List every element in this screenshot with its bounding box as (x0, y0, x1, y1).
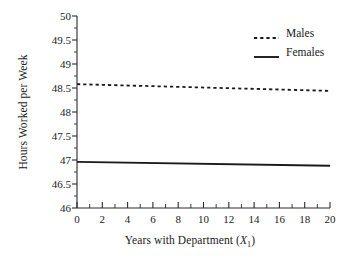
y-axis-tick-label: 48.5 (31, 83, 71, 94)
y-axis-tick-label: 46 (31, 203, 71, 214)
x-axis-title: Years with Department (X1) (60, 234, 320, 249)
x-axis-tick-labels: 02468101214161820 (77, 214, 330, 228)
legend-label: Males (286, 28, 314, 40)
y-axis-tick-label: 48 (31, 107, 71, 118)
y-axis-tick-label: 49 (31, 59, 71, 70)
legend-item-males: Males (253, 24, 343, 43)
legend-line-icon (253, 52, 280, 62)
y-axis-tick-label: 47.5 (31, 131, 71, 142)
series-line-females (77, 162, 330, 166)
chart-legend: MalesFemales (253, 24, 343, 62)
series-line-males (77, 84, 330, 91)
x-axis-title-suffix: ) (251, 234, 255, 246)
legend-swatch-dashed (253, 29, 280, 39)
x-axis-tick-label: 20 (315, 214, 344, 225)
legend-swatch-solid (253, 48, 280, 58)
y-axis-tick-labels: 4646.54747.54848.54949.550 (26, 16, 71, 208)
y-axis-tick-label: 47 (31, 155, 71, 166)
legend-line-icon (253, 33, 280, 43)
y-axis-tick-label: 50 (31, 11, 71, 22)
x-axis-title-prefix: Years with Department ( (125, 234, 240, 246)
y-axis-tick-label: 49.5 (31, 35, 71, 46)
chart-figure: Hours Worked per Week 4646.54747.54848.5… (0, 0, 344, 263)
legend-item-females: Females (253, 43, 343, 62)
legend-label: Females (286, 47, 324, 59)
y-axis-tick-label: 46.5 (31, 179, 71, 190)
